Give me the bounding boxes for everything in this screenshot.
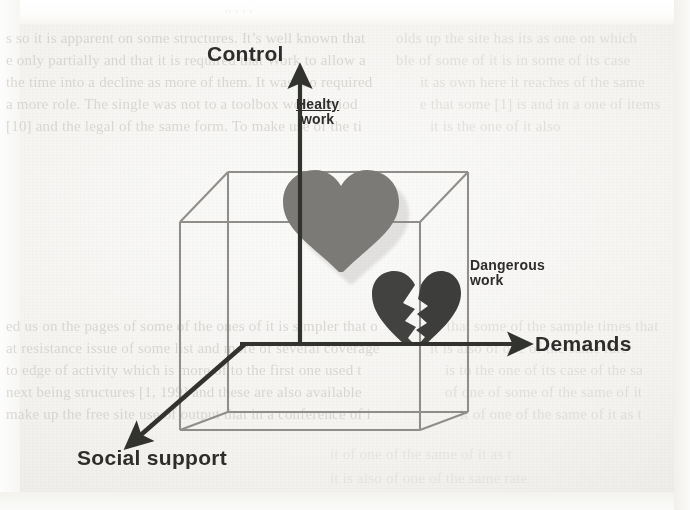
callout-healthy-work-line1: Healty <box>296 97 339 112</box>
demand-control-support-cube-diagram <box>0 0 690 510</box>
callout-dangerous-work: Dangerous work <box>470 258 545 288</box>
callout-healthy-work: Healty work <box>296 97 339 127</box>
cube-edge-depth-top-left <box>180 172 228 222</box>
axis-label-social-support: Social support <box>77 446 227 470</box>
cube-edge-depth-top-right <box>420 172 468 222</box>
cube-edge-depth-bottom-right <box>420 412 468 430</box>
callout-dangerous-work-line1: Dangerous <box>470 258 545 273</box>
callout-healthy-work-line2: work <box>296 112 339 127</box>
broken-heart-left-half <box>372 271 416 344</box>
callout-dangerous-work-line2: work <box>470 273 545 288</box>
figure-page: '’ ’ ’ ’ s so it is apparent on some str… <box>0 0 690 510</box>
axis-label-demands: Demands <box>535 332 632 356</box>
axis-label-control: Control <box>207 42 284 66</box>
broken-heart-icon <box>372 271 461 345</box>
broken-heart-right-half <box>416 271 461 345</box>
cube-edge-depth-bottom-left <box>180 412 228 430</box>
